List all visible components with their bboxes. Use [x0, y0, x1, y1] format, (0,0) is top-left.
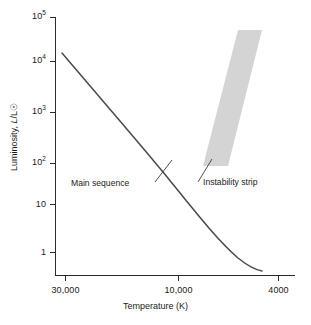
y-tick-label-1: 1: [14, 247, 46, 257]
annotation-instability-strip: Instability strip: [203, 177, 257, 187]
annotation-main-sequence: Main sequence: [71, 178, 129, 188]
x-tick-label-30000: 30,000: [35, 285, 96, 295]
x-tick-label-4000: 4000: [253, 285, 304, 295]
hr-diagram-figure: 105 104 103 102 10 1 30,000 10,000 4000 …: [0, 0, 311, 325]
instability-strip-band: [203, 30, 262, 166]
y-axis-title: Luminosity, L/L☉: [9, 87, 19, 187]
x-axis-title: Temperature (K): [0, 301, 311, 311]
y-tick-label-1e5: 105: [14, 11, 46, 21]
y-tick-label-1e4: 104: [14, 55, 46, 65]
y-tick-label-10: 10: [14, 199, 46, 209]
x-tick-label-10000: 10,000: [148, 285, 209, 295]
main-sequence-leader-line: [155, 160, 172, 182]
plot-canvas: [0, 0, 311, 325]
